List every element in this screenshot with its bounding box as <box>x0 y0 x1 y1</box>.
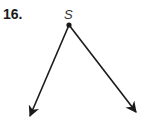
vertex-point <box>66 22 71 27</box>
left-ray <box>30 25 69 116</box>
right-ray <box>69 25 136 112</box>
angle-figure <box>0 0 152 134</box>
